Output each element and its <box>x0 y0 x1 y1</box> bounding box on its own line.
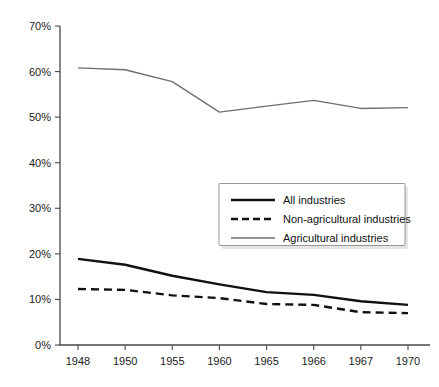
y-tick-label: 10% <box>29 293 51 305</box>
x-tick-label: 1960 <box>207 355 231 367</box>
line-chart: 0%10%20%30%40%50%60%70% 1948195019551960… <box>0 0 439 387</box>
legend-label: Non-agricultural industries <box>283 213 411 225</box>
chart-canvas: 0%10%20%30%40%50%60%70% 1948195019551960… <box>0 0 439 387</box>
x-tick-label: 1966 <box>301 355 325 367</box>
y-tick-label: 0% <box>35 339 51 351</box>
x-tick-label: 1965 <box>254 355 278 367</box>
y-tick-label: 60% <box>29 66 51 78</box>
x-tick-label: 1950 <box>113 355 137 367</box>
x-tick-label: 1970 <box>396 355 420 367</box>
chart-legend: All industriesNon-agricultural industrie… <box>219 184 411 250</box>
y-tick-label: 30% <box>29 202 51 214</box>
legend-label: All industries <box>283 194 346 206</box>
y-tick-label: 40% <box>29 157 51 169</box>
y-tick-label: 20% <box>29 248 51 260</box>
y-tick-label: 70% <box>29 20 51 32</box>
x-tick-label: 1955 <box>160 355 184 367</box>
x-tick-label: 1948 <box>66 355 90 367</box>
x-tick-label: 1967 <box>349 355 373 367</box>
y-tick-label: 50% <box>29 111 51 123</box>
legend-label: Agricultural industries <box>283 232 389 244</box>
